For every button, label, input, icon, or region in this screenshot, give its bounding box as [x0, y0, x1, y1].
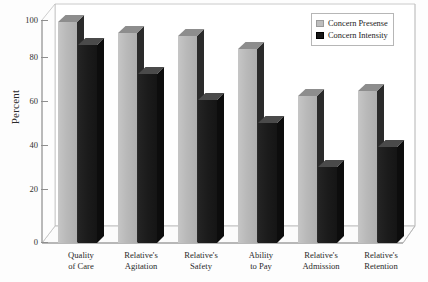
bar-side [217, 93, 224, 243]
bar-face [178, 36, 197, 243]
bar-side [277, 116, 284, 243]
bar-face [58, 22, 77, 243]
x-axis-category-line: Relative's [344, 250, 418, 261]
legend-label-intensity: Concern Intensity [328, 31, 388, 40]
legend: Concern Presense Concern Intensity [311, 13, 394, 46]
bar-face [118, 33, 137, 243]
legend-item-concern-intensity: Concern Intensity [316, 30, 388, 41]
legend-label-presence: Concern Presense [328, 19, 388, 28]
bar-presence-1 [118, 33, 137, 243]
legend-swatch-presence-icon [316, 20, 324, 27]
x-axis-category-line: Retention [344, 261, 418, 272]
bar-side [397, 140, 404, 243]
bar-chart: Percent 100 80 60 40 20 0 Qualityof Care… [0, 0, 428, 282]
bar-presence-0 [58, 22, 77, 243]
bar-face [198, 100, 217, 243]
bar-face [138, 74, 157, 243]
bar-face [238, 49, 257, 243]
bar-face [378, 147, 397, 243]
bar-presence-3 [238, 49, 257, 243]
bar-face [78, 45, 97, 243]
bar-presence-2 [178, 36, 197, 243]
bar-presence-4 [298, 96, 317, 243]
legend-swatch-intensity-icon [316, 32, 324, 39]
bar-intensity-4 [318, 167, 337, 243]
legend-item-concern-presense: Concern Presense [316, 18, 388, 29]
bar-face [318, 167, 337, 243]
bar-face [258, 123, 277, 243]
bar-intensity-5 [378, 147, 397, 243]
bar-intensity-1 [138, 74, 157, 243]
bar-face [298, 96, 317, 243]
x-axis-category-label-5: Relative'sRetention [344, 250, 418, 271]
bar-intensity-0 [78, 45, 97, 243]
bar-face [358, 91, 377, 243]
bar-presence-5 [358, 91, 377, 243]
bar-side [97, 38, 104, 243]
bar-intensity-2 [198, 100, 217, 243]
bar-side [157, 67, 164, 243]
bar-side [337, 160, 344, 243]
bar-intensity-3 [258, 123, 277, 243]
